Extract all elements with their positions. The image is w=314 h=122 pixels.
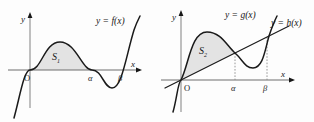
left-diagram-canvas: y x O α β y = f(x) S1 xyxy=(0,0,157,122)
left-tick-beta: β xyxy=(117,73,123,83)
left-y-axis-label: y xyxy=(20,14,25,24)
shaded-region-s1 xyxy=(30,42,92,70)
right-curve-label-h: y = h(x) xyxy=(270,18,302,29)
left-curve-label-f: y = f(x) xyxy=(95,16,125,27)
right-region-label-s2-subscript: 2 xyxy=(204,52,207,58)
left-x-axis-arrow-icon xyxy=(136,68,142,73)
right-tick-beta: β xyxy=(262,83,268,93)
left-y-axis-arrow-icon xyxy=(28,12,33,18)
right-x-axis-label: x xyxy=(280,69,285,79)
right-diagram-canvas: y x O α β y = g(x) y = h(x) S2 xyxy=(157,0,314,122)
figure-panel-right: y x O α β y = g(x) y = h(x) S2 xyxy=(157,0,314,122)
left-x-axis-label: x xyxy=(130,59,135,69)
figure-panel-left: y x O α β y = f(x) S1 xyxy=(0,0,157,122)
right-y-axis-label: y xyxy=(171,12,176,22)
math-figure-pair: y x O α β y = f(x) S1 xyxy=(0,0,314,122)
right-x-axis-arrow-icon xyxy=(289,78,295,83)
left-origin-label: O xyxy=(24,73,30,83)
left-tick-alpha: α xyxy=(88,73,93,83)
curve-h-line xyxy=(165,26,289,88)
right-tick-alpha: α xyxy=(231,83,236,93)
right-curve-label-g: y = g(x) xyxy=(224,10,256,21)
right-y-axis-arrow-icon xyxy=(179,10,184,16)
left-region-label-s1-subscript: 1 xyxy=(57,58,60,64)
right-origin-label: O xyxy=(184,83,190,93)
